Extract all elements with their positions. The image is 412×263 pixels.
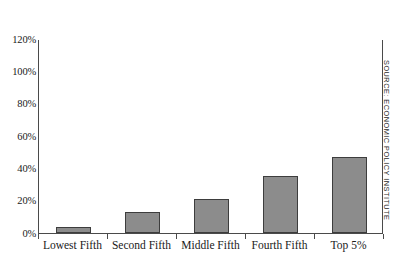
y-tick-label: 80% (2, 99, 36, 110)
bar (263, 176, 299, 233)
x-tick-label: Second Fifth (107, 238, 176, 252)
y-tick-label: 120% (2, 35, 36, 46)
y-tick-label: 100% (2, 67, 36, 78)
x-tick-label: Top 5% (314, 238, 383, 252)
x-tick-label: Middle Fifth (176, 238, 245, 252)
x-axis-tick (383, 234, 384, 239)
plot-area (38, 40, 383, 234)
y-tick-label: 40% (2, 164, 36, 175)
y-tick-label: 0% (2, 229, 36, 240)
bar-chart-figure: 120% 100% 80% 60% 40% 20% 0% Lowest Fift… (0, 0, 412, 263)
bar (56, 227, 92, 233)
bars-layer (39, 40, 382, 233)
y-axis-labels: 120% 100% 80% 60% 40% 20% 0% (0, 0, 36, 263)
bar (194, 199, 230, 233)
x-tick-label: Lowest Fifth (38, 238, 107, 252)
y-tick-label: 60% (2, 132, 36, 143)
bar (332, 157, 368, 233)
y-tick-label: 20% (2, 196, 36, 207)
x-tick-label: Fourth Fifth (245, 238, 314, 252)
x-axis-labels: Lowest Fifth Second Fifth Middle Fifth F… (38, 238, 383, 258)
source-credit: SOURCE: ECONOMIC POLICY INSTITUTE (382, 60, 391, 221)
bar (125, 212, 161, 233)
